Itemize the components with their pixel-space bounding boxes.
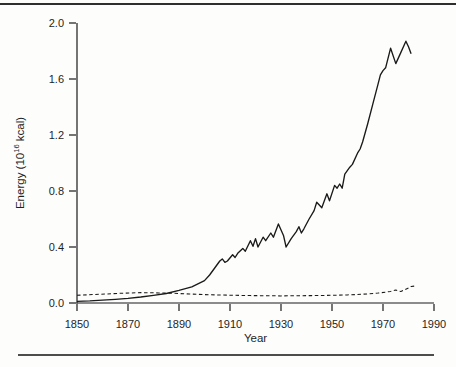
y-axis-label-prefix: Energy (10 (14, 153, 26, 209)
x-tick-label: 1910 (218, 318, 242, 330)
y-tick-label: 1.2 (49, 129, 64, 141)
y-tick-label: 0.8 (49, 185, 64, 197)
dashed-line-series-path (77, 286, 416, 296)
x-tick-label: 1950 (320, 318, 344, 330)
x-tick-label: 1930 (269, 318, 293, 330)
x-tick-label: 1870 (116, 318, 140, 330)
y-tick-label: 0.0 (49, 297, 64, 309)
y-axis-label-suffix: kcal) (14, 117, 26, 144)
x-tick-label: 1890 (167, 318, 191, 330)
x-tick-label: 1970 (371, 318, 395, 330)
y-axis-label-superscript: 16 (12, 144, 21, 152)
y-tick-label: 2.0 (49, 17, 64, 29)
x-axis-label: Year (244, 332, 267, 344)
figure: 0.00.40.81.21.62.01850187018901910193019… (0, 0, 456, 367)
y-tick-label: 0.4 (49, 241, 64, 253)
x-tick-label: 1850 (65, 318, 89, 330)
y-tick-label: 1.6 (49, 73, 64, 85)
bottom-border-rule (18, 354, 434, 356)
solid-line-series-path (77, 41, 411, 301)
energy-chart: 0.00.40.81.21.62.01850187018901910193019… (0, 0, 456, 367)
y-axis-label: Energy (1016 kcal) (12, 83, 28, 243)
x-tick-label: 1990 (422, 318, 446, 330)
